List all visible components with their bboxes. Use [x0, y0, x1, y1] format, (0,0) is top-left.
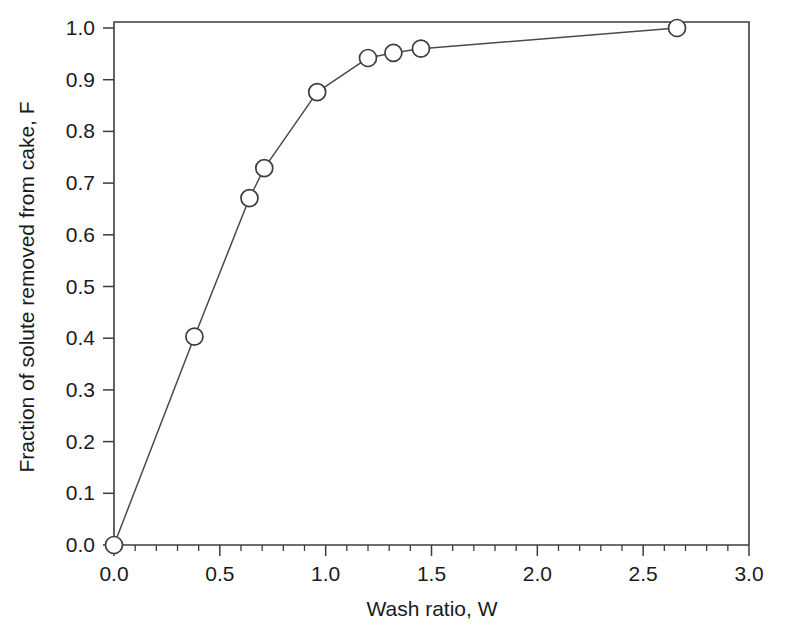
x-tick-label: 0.5: [205, 562, 234, 585]
y-tick-label: 0.7: [66, 171, 95, 194]
data-point-marker: [385, 44, 402, 61]
x-tick-label: 1.5: [417, 562, 446, 585]
data-point-marker: [669, 20, 686, 37]
data-point-marker: [256, 160, 273, 177]
y-tick-label: 0.1: [66, 481, 95, 504]
data-point-marker: [309, 84, 326, 101]
data-point-marker: [241, 190, 258, 207]
x-tick-label: 1.0: [311, 562, 340, 585]
y-tick-label: 0.8: [66, 119, 95, 142]
y-axis-label: Fraction of solute removed from cake, F: [15, 101, 38, 472]
x-tick-label: 0.0: [99, 562, 128, 585]
y-tick-label: 0.2: [66, 430, 95, 453]
chart-figure: 0.00.51.01.52.02.53.0 0.00.10.20.30.40.5…: [0, 0, 785, 637]
data-point-marker: [106, 537, 123, 554]
y-tick-label: 0.6: [66, 223, 95, 246]
y-tick-label: 0.0: [66, 533, 95, 556]
x-tick-label: 3.0: [734, 562, 763, 585]
wash-ratio-line-chart: 0.00.51.01.52.02.53.0 0.00.10.20.30.40.5…: [0, 0, 785, 637]
x-axis-label: Wash ratio, W: [366, 597, 497, 620]
data-point-marker: [360, 49, 377, 66]
y-tick-label: 0.3: [66, 378, 95, 401]
y-tick-label: 1.0: [66, 16, 95, 39]
data-point-marker: [186, 328, 203, 345]
y-tick-label: 0.9: [66, 68, 95, 91]
data-point-marker: [412, 40, 429, 57]
x-tick-label: 2.0: [523, 562, 552, 585]
x-tick-label: 2.5: [629, 562, 658, 585]
y-tick-label: 0.5: [66, 275, 95, 298]
y-tick-label: 0.4: [66, 326, 96, 349]
